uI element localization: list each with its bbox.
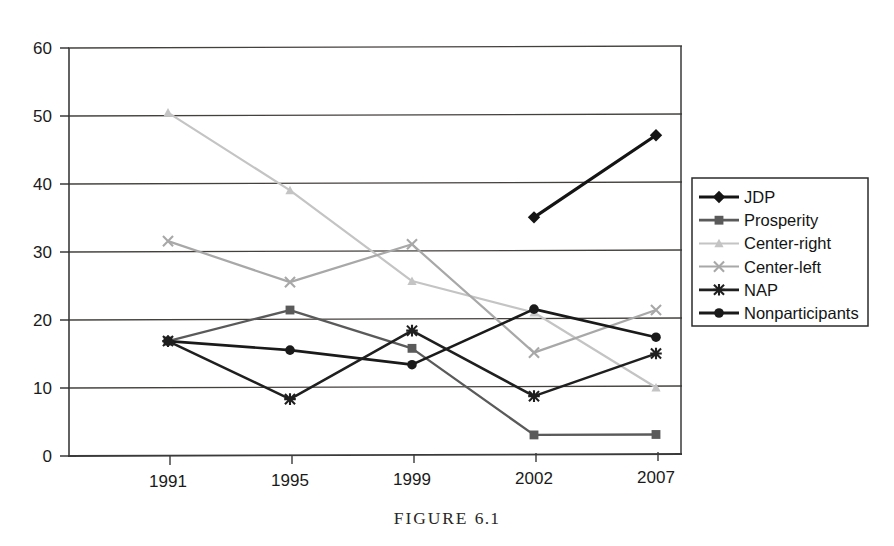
circle-marker	[529, 304, 539, 314]
y-tick-marks	[60, 48, 69, 456]
figure-caption-number: 6.1	[475, 508, 500, 528]
square-marker	[286, 306, 295, 315]
asterisk-marker	[650, 348, 662, 360]
asterisk-marker	[528, 390, 540, 402]
legend-item-label: Prosperity	[744, 211, 819, 229]
circle-marker	[407, 360, 417, 370]
asterisk-marker	[406, 325, 418, 337]
asterisk-marker	[284, 393, 296, 405]
square-marker	[652, 430, 661, 439]
legend-item-label: Center-right	[744, 234, 832, 252]
x-tick-label-2007: 2007	[637, 468, 675, 487]
y-tick-label-40: 40	[33, 175, 52, 194]
square-marker	[530, 431, 539, 440]
asterisk-marker	[713, 284, 725, 296]
figure-caption: FIGURE 6.1	[0, 508, 894, 529]
asterisk-marker	[162, 335, 174, 347]
y-tick-label-30: 30	[33, 243, 52, 262]
x-tick-label-2002: 2002	[515, 469, 553, 488]
circle-marker	[285, 345, 295, 355]
legend: JDPProsperityCenter-rightCenter-leftNAPN…	[692, 178, 868, 326]
legend-item-label: NAP	[744, 281, 778, 299]
legend-item-label: Nonparticipants	[744, 304, 859, 322]
square-marker	[408, 344, 417, 353]
y-tick-label-10: 10	[33, 379, 52, 398]
figure-caption-label: FIGURE	[394, 508, 469, 528]
y-tick-label-20: 20	[33, 311, 52, 330]
y-tick-label-0: 0	[43, 447, 52, 466]
legend-item-label: JDP	[744, 188, 775, 206]
y-tick-label-60: 60	[33, 39, 52, 58]
x-tick-label-1995: 1995	[271, 471, 309, 490]
y-tick-label-50: 50	[33, 107, 52, 126]
legend-item-label: Center-left	[744, 258, 821, 276]
square-marker	[715, 216, 724, 225]
x-tick-label-1999: 1999	[393, 470, 431, 489]
circle-marker	[651, 332, 661, 342]
line-chart: 60 50 40 30 20 10 0 1991 1995 1999 2002 …	[0, 0, 894, 506]
circle-marker	[714, 308, 724, 318]
figure-container: 60 50 40 30 20 10 0 1991 1995 1999 2002 …	[0, 0, 894, 546]
x-tick-label-1991: 1991	[149, 472, 187, 491]
